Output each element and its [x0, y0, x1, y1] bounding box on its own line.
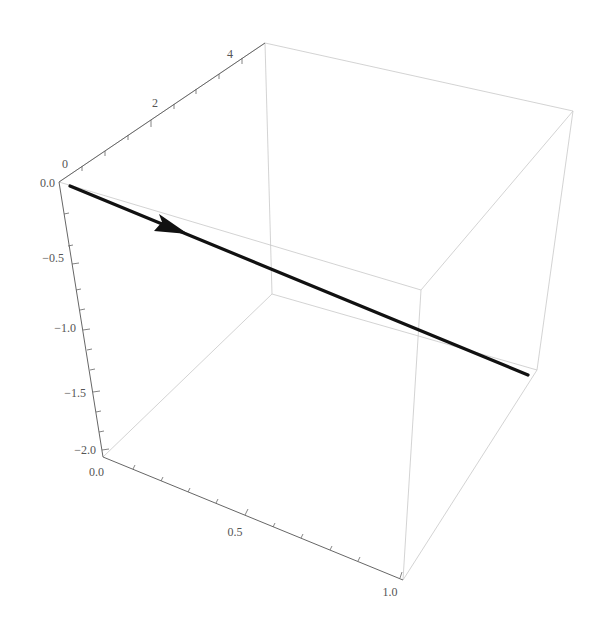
x-tick-1-0: 1.0	[383, 585, 398, 599]
y-axis-line	[59, 43, 265, 182]
z-tick-neg-1-0: −1.0	[54, 321, 76, 335]
z-axis-line	[59, 182, 103, 457]
x-tick-0-0: 0.0	[89, 465, 104, 479]
z-tick-neg-1-5: −1.5	[64, 386, 86, 400]
z-tick-neg-2-0: −2.0	[74, 443, 96, 457]
z-tick-labels: 0.0 −0.5 −1.0 −1.5 −2.0	[40, 176, 96, 457]
y-tick-labels: 0 2 4	[62, 47, 233, 171]
y-tick-0: 0	[62, 157, 68, 171]
z-tick-0: 0.0	[40, 176, 55, 190]
x-axis-line	[103, 457, 403, 580]
y-tick-4: 4	[227, 47, 233, 61]
x-tick-labels: 0.0 0.5 1.0	[89, 465, 398, 599]
z-tick-neg-0-5: −0.5	[42, 251, 64, 265]
x-tick-0-5: 0.5	[228, 525, 243, 539]
arrow-shaft	[70, 186, 528, 375]
axes	[59, 43, 403, 580]
y-tick-2: 2	[152, 96, 158, 110]
3d-plot: 0 2 4 0.0 −0.5 −1.0 −1.5 −2.0 0.0 0.5 1.…	[0, 0, 596, 637]
tick-marks	[64, 58, 402, 578]
bounding-box	[59, 43, 573, 580]
arrow-series	[70, 186, 528, 375]
